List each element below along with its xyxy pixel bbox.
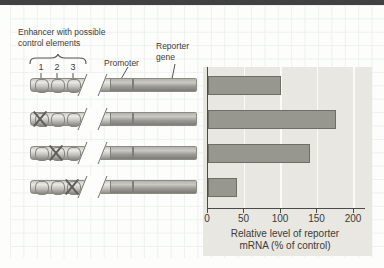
x-mark-element-1 bbox=[32, 109, 48, 129]
bar-construct-2 bbox=[208, 110, 336, 129]
promoter-segment bbox=[110, 79, 133, 91]
x-mark-element-2 bbox=[48, 143, 64, 163]
tick-label-100: 100 bbox=[265, 213, 295, 224]
bar-construct-1 bbox=[208, 76, 281, 95]
control-element-2 bbox=[51, 79, 65, 93]
element-number-2: 2 bbox=[52, 62, 62, 72]
reporter-gene-segment bbox=[133, 79, 196, 91]
dna-construct-4 bbox=[30, 180, 197, 194]
reporter-gene-segment bbox=[133, 181, 196, 193]
x-axis-label-line2: mRNA (% of control) bbox=[205, 240, 365, 252]
x-axis-line bbox=[207, 208, 365, 210]
downstream-dna bbox=[92, 112, 197, 126]
control-element-1 bbox=[35, 79, 49, 93]
x-mark-element-3 bbox=[64, 177, 80, 197]
element-number-1: 1 bbox=[36, 62, 46, 72]
downstream-dna bbox=[92, 78, 197, 92]
bar-chart-panel: 050100150200 Relative level of reporter … bbox=[203, 67, 372, 256]
control-element-2 bbox=[51, 181, 65, 195]
promoter-segment bbox=[110, 113, 133, 125]
promoter-segment bbox=[110, 147, 133, 159]
downstream-dna bbox=[92, 146, 197, 160]
dna-construct-2 bbox=[30, 112, 197, 126]
dna-construct-3 bbox=[30, 146, 197, 160]
dna-construct-1 bbox=[30, 78, 197, 92]
tick-label-150: 150 bbox=[302, 213, 332, 224]
bar-construct-3 bbox=[208, 144, 310, 163]
bar-construct-4 bbox=[208, 178, 237, 197]
gridline-200 bbox=[353, 67, 355, 208]
y-axis-line bbox=[207, 67, 209, 209]
gridline-150 bbox=[317, 67, 319, 208]
reporter-gene-segment bbox=[133, 147, 196, 159]
tick-label-50: 50 bbox=[229, 213, 259, 224]
control-element-2 bbox=[51, 113, 65, 127]
promoter-segment bbox=[110, 181, 133, 193]
control-element-1 bbox=[35, 147, 49, 161]
downstream-dna bbox=[92, 180, 197, 194]
reporter-gene-segment bbox=[133, 113, 196, 125]
tick-label-200: 200 bbox=[338, 213, 368, 224]
x-axis-label: Relative level of reporter mRNA (% of co… bbox=[205, 228, 365, 252]
control-element-1 bbox=[35, 181, 49, 195]
x-axis-label-line1: Relative level of reporter bbox=[205, 228, 365, 240]
textbook-figure: Enhancer with possible control elements … bbox=[0, 0, 384, 268]
element-number-3: 3 bbox=[68, 62, 78, 72]
leader-lines bbox=[0, 0, 200, 200]
tick-label-0: 0 bbox=[192, 213, 222, 224]
